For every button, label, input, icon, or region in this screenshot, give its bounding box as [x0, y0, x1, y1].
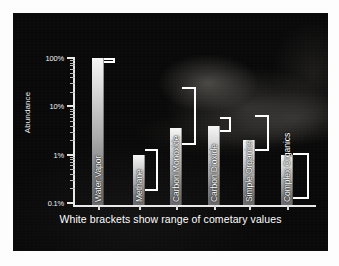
bar-fill: [243, 140, 255, 205]
y-tick-minor: [70, 117, 75, 118]
bar-fill: [133, 155, 145, 205]
y-tick-minor: [70, 73, 75, 74]
y-tick-major: [67, 57, 75, 59]
bar-simple-organics: Simple Organics: [243, 140, 255, 205]
y-tick-minor: [70, 174, 75, 175]
y-tick-minor: [70, 180, 75, 181]
y-tick-minor: [70, 69, 75, 70]
y-tick-minor: [70, 92, 75, 93]
y-tick-minor: [70, 111, 75, 112]
y-tick-minor: [70, 109, 75, 110]
y-tick-minor: [70, 83, 75, 84]
figure-root: Abundance 100%10%1%0.1% Water VaporMetha…: [0, 0, 339, 266]
y-tick-label: 1%: [54, 150, 67, 159]
x-axis-line: [73, 205, 316, 207]
bracket-carbon-monoxide: [182, 87, 196, 145]
y-tick-major: [67, 105, 75, 107]
y-tick-minor: [70, 132, 75, 133]
y-tick-minor: [70, 114, 75, 115]
bar-water-vapor: Water Vapor: [92, 58, 104, 205]
bar-carbon-monoxide: Carbon Monoxide: [170, 128, 182, 205]
x-tick: [249, 205, 251, 210]
bracket-methane: [145, 149, 158, 191]
y-tick-minor: [70, 60, 75, 61]
y-tick-label: 10%: [50, 102, 67, 111]
y-tick-minor: [70, 162, 75, 163]
y-tick-major: [67, 154, 75, 156]
y-tick-minor: [70, 140, 75, 141]
bracket-simple-organics: [255, 115, 269, 150]
bar-fill: [281, 155, 293, 205]
y-tick-minor: [70, 165, 75, 166]
y-tick-label: 0.1%: [48, 199, 67, 208]
y-tick-minor: [70, 126, 75, 127]
bar-carbon-dioxide: Carbon Dioxide: [208, 126, 220, 205]
bracket-water-vapor: [104, 58, 115, 63]
bar-fill: [170, 128, 182, 205]
y-tick-minor: [70, 188, 75, 189]
x-tick: [98, 205, 100, 210]
bar-fill: [208, 126, 220, 205]
y-tick-minor: [70, 157, 75, 158]
bracket-carbon-dioxide: [220, 117, 231, 132]
y-tick-minor: [70, 169, 75, 170]
chart-caption: White brackets show range of cometary va…: [13, 213, 328, 225]
y-tick-minor: [70, 77, 75, 78]
y-tick-major: [67, 202, 75, 204]
y-tick-label: 100%: [46, 54, 67, 63]
bar-complex-organics: Complex Organics: [281, 155, 293, 205]
x-tick: [176, 205, 178, 210]
y-tick-minor: [70, 63, 75, 64]
y-tick-minor: [70, 65, 75, 66]
bar-methane: Methane: [133, 155, 145, 205]
bar-fill: [92, 58, 104, 205]
bracket-complex-organics: [293, 153, 309, 200]
x-tick: [139, 205, 141, 210]
y-tick-minor: [70, 121, 75, 122]
chart-panel: Abundance 100%10%1%0.1% Water VaporMetha…: [13, 13, 328, 251]
x-tick: [214, 205, 216, 210]
y-axis-title: Abundance: [23, 92, 32, 133]
x-tick: [287, 205, 289, 210]
y-tick-minor: [70, 159, 75, 160]
